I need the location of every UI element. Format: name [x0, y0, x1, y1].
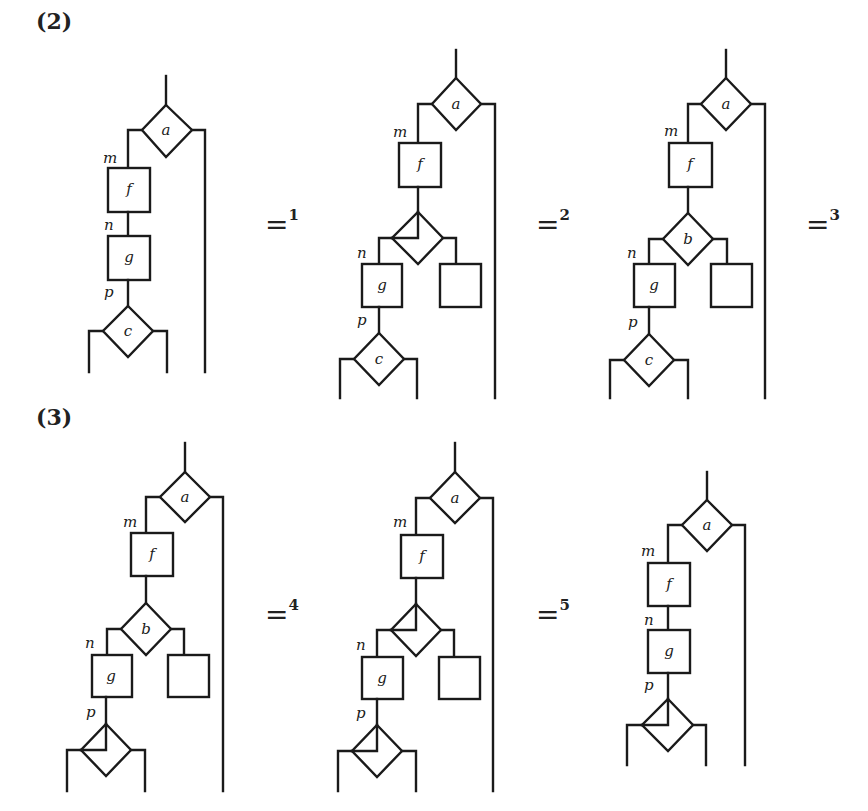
edge-label-n: n [627, 244, 637, 262]
edge-label-m: m [123, 513, 137, 531]
flowchart-6: a m f n g p [627, 472, 745, 765]
edge-label-m: m [393, 123, 407, 141]
process-empty [439, 657, 480, 699]
node-label: a [722, 95, 731, 113]
node-label: b [141, 620, 151, 638]
flowchart-1: a m f n g p c [89, 76, 205, 372]
edge-label-n: n [356, 636, 366, 654]
edge-label-n: n [104, 216, 114, 234]
node-label: g [377, 276, 387, 294]
edge-label-m: m [664, 122, 678, 140]
edge-label-m: m [103, 149, 117, 167]
edge-label-n: n [85, 634, 95, 652]
node-label: c [645, 351, 654, 369]
node-label: a [451, 489, 460, 507]
flowchart-4: a m f b n g p [67, 443, 223, 791]
edge-label-p: p [356, 704, 366, 722]
node-label: g [106, 667, 116, 685]
process-empty [711, 264, 752, 307]
diagram-canvas: a m f n g p c a m f n g p [0, 0, 868, 811]
node-label: g [649, 276, 659, 294]
flowchart-3: a m f b n g p c [610, 50, 765, 398]
edge-label-p: p [357, 311, 367, 329]
node-label: a [162, 121, 171, 139]
flowchart-2: a m f n g p c [340, 50, 495, 398]
node-label: c [124, 322, 133, 340]
edge-label-p: p [104, 283, 114, 301]
node-label: g [664, 642, 674, 660]
edge-label-m: m [641, 542, 655, 560]
edge-label-p: p [86, 703, 96, 721]
edge-label-n: n [357, 244, 367, 262]
node-label: a [703, 516, 712, 534]
process-empty [168, 655, 209, 697]
node-label: g [124, 248, 134, 266]
edge-label-p: p [628, 313, 638, 331]
node-label: g [377, 669, 387, 687]
node-label: a [452, 95, 461, 113]
edge-label-p: p [644, 676, 654, 694]
node-label: b [683, 230, 693, 248]
node-label: c [375, 350, 384, 368]
edge-label-n: n [644, 611, 654, 629]
node-label: a [181, 488, 190, 506]
edge-label-m: m [393, 513, 407, 531]
process-empty [440, 264, 481, 307]
flowchart-5: a m f n g p [338, 443, 493, 791]
